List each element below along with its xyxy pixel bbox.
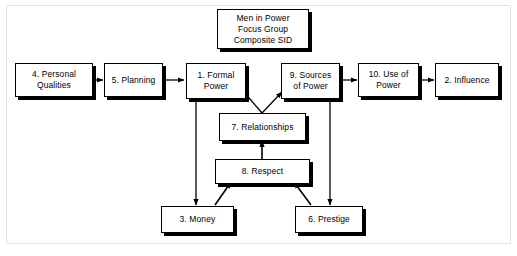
- node-header[interactable]: Men in Power Focus Group Composite SID: [217, 9, 309, 49]
- node-planning[interactable]: 5. Planning: [104, 63, 163, 97]
- frame-left-line: [6, 5, 7, 244]
- frame-top-line: [6, 5, 511, 6]
- node-relationships-label: 7. Relationships: [229, 122, 295, 133]
- node-sources-of-power-line1: 9. Sources: [288, 70, 334, 81]
- node-personal-qualities[interactable]: 4. Personal Qualities: [15, 63, 93, 97]
- frame-bottom-line: [6, 243, 511, 244]
- node-respect[interactable]: 8. Respect: [215, 159, 310, 184]
- node-header-line1: Men in Power: [234, 13, 291, 24]
- node-personal-qualities-line2: Qualities: [35, 80, 73, 91]
- node-money-label: 3. Money: [178, 214, 218, 225]
- node-header-line3: Composite SID: [232, 35, 294, 46]
- node-prestige[interactable]: 6. Prestige: [295, 206, 363, 233]
- node-use-of-power[interactable]: 10. Use of Power: [358, 63, 419, 97]
- node-sources-of-power-line2: of Power: [291, 81, 329, 92]
- node-respect-label: 8. Respect: [240, 166, 286, 177]
- node-money[interactable]: 3. Money: [161, 206, 234, 233]
- node-relationships[interactable]: 7. Relationships: [219, 113, 306, 141]
- node-sources-of-power[interactable]: 9. Sources of Power: [281, 63, 340, 99]
- edge-money-to-respect: [215, 182, 231, 205]
- node-formal-power-line2: Power: [202, 81, 231, 92]
- node-formal-power-line1: 1. Formal: [196, 70, 237, 81]
- node-influence[interactable]: 2. Influence: [435, 63, 499, 97]
- edge-relationships-to-sources: [262, 92, 282, 113]
- node-influence-label: 2. Influence: [442, 75, 491, 86]
- frame-right-line: [510, 5, 511, 244]
- node-personal-qualities-line1: 4. Personal: [30, 69, 78, 80]
- node-prestige-label: 6. Prestige: [306, 214, 352, 225]
- node-planning-label: 5. Planning: [110, 75, 158, 86]
- node-header-line2: Focus Group: [236, 24, 290, 35]
- node-use-of-power-line2: Power: [374, 80, 403, 91]
- node-use-of-power-line1: 10. Use of: [367, 69, 411, 80]
- diagram-canvas: Men in Power Focus Group Composite SID 4…: [0, 0, 517, 256]
- edge-prestige-to-respect: [294, 182, 311, 205]
- node-formal-power[interactable]: 1. Formal Power: [186, 63, 246, 99]
- edge-relationships-to-formal: [244, 92, 262, 113]
